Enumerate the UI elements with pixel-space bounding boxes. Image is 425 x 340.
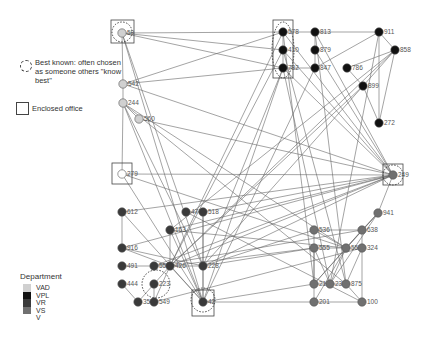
legend-best-known-label: Best known: often chosen as someone othe… xyxy=(35,58,130,85)
legend-enclosed-office-label: Enclosed office xyxy=(32,104,83,113)
node-59: 59 xyxy=(118,29,135,37)
node-circle xyxy=(342,280,350,288)
node-label: 536 xyxy=(319,226,330,233)
node-circle xyxy=(375,119,383,127)
node-circle xyxy=(135,115,143,123)
node-label: 249 xyxy=(398,171,409,178)
node-label: 410 xyxy=(288,46,299,53)
node-circle xyxy=(150,280,158,288)
node-label: 911 xyxy=(384,28,395,35)
node-label: 163 xyxy=(175,226,186,233)
node-circle xyxy=(118,208,126,216)
node-circle xyxy=(134,298,142,306)
node-circle xyxy=(310,280,318,288)
node-circle xyxy=(311,28,319,36)
node-label: 786 xyxy=(352,64,363,71)
department-legend: Department VAD VPL VR VS V xyxy=(20,272,100,322)
node-circle xyxy=(279,46,287,54)
node-label: 223 xyxy=(159,280,170,287)
node-279: 279 xyxy=(118,170,138,178)
node-circle xyxy=(199,208,207,216)
node-label: 858 xyxy=(400,46,411,53)
node-label: 847 xyxy=(320,64,331,71)
edge xyxy=(203,284,314,302)
node-228: 228 xyxy=(199,262,219,270)
node-244: 244 xyxy=(119,99,139,107)
department-label: VR xyxy=(36,299,46,307)
node-578: 578 xyxy=(279,28,299,36)
department-label: V xyxy=(36,314,41,322)
node-201: 201 xyxy=(310,298,330,306)
node-circle xyxy=(343,64,351,72)
node-circle xyxy=(150,298,158,306)
node-circle xyxy=(279,64,287,72)
node-circle xyxy=(310,298,318,306)
node-518: 518 xyxy=(199,208,219,216)
edge xyxy=(123,103,346,284)
node-circle xyxy=(375,28,383,36)
node-circle xyxy=(166,226,174,234)
node-560: 560 xyxy=(135,115,155,123)
node-813: 813 xyxy=(311,28,331,36)
edge xyxy=(122,174,393,175)
department-label: VS xyxy=(36,307,45,315)
edge xyxy=(283,32,393,175)
node-272: 272 xyxy=(375,119,395,127)
node-label: 228 xyxy=(208,262,219,269)
node-label: 555 xyxy=(319,244,330,251)
node-label: 491 xyxy=(127,262,138,269)
node-label: 813 xyxy=(320,28,331,35)
color-swatch xyxy=(23,307,31,315)
department-row-vs: VS xyxy=(20,307,100,315)
color-swatch xyxy=(23,284,31,292)
node-638: 638 xyxy=(358,226,378,234)
node-label: 916 xyxy=(127,244,138,251)
node-536: 536 xyxy=(310,226,330,234)
department-row-vpl: VPL xyxy=(20,292,100,300)
color-swatch xyxy=(23,292,31,300)
node-circle xyxy=(118,280,126,288)
node-circle xyxy=(358,244,366,252)
department-label: VPL xyxy=(36,292,49,300)
node-549: 549 xyxy=(150,298,170,306)
node-circle xyxy=(118,244,126,252)
edge xyxy=(122,175,393,248)
node-410: 410 xyxy=(279,46,299,54)
edge xyxy=(203,68,315,302)
node-circle xyxy=(391,46,399,54)
node-858: 858 xyxy=(391,46,411,54)
department-label: VAD xyxy=(36,284,50,292)
node-label: 875 xyxy=(351,280,362,287)
node-label: 244 xyxy=(128,99,139,106)
node-circle xyxy=(311,64,319,72)
node-circle xyxy=(150,262,158,270)
node-circle xyxy=(342,244,350,252)
node-circle xyxy=(118,170,126,178)
node-426: 426 xyxy=(166,262,186,270)
edge xyxy=(315,32,393,175)
node-circle xyxy=(310,226,318,234)
node-786: 786 xyxy=(343,64,363,72)
node-circle xyxy=(182,208,190,216)
node-circle xyxy=(199,298,207,306)
node-label: 578 xyxy=(288,28,299,35)
edge xyxy=(314,230,362,284)
node-324: 324 xyxy=(358,244,378,252)
department-row-vad: VAD xyxy=(20,284,100,292)
edge xyxy=(122,32,283,33)
node-label: 549 xyxy=(159,298,170,305)
node-label: 100 xyxy=(367,298,378,305)
node-612: 612 xyxy=(118,208,138,216)
node-circle xyxy=(199,262,207,270)
node-circle xyxy=(118,29,126,37)
node-circle xyxy=(166,262,174,270)
node-163: 163 xyxy=(166,226,186,234)
node-label: 941 xyxy=(383,209,394,216)
node-label: 324 xyxy=(367,244,378,251)
node-circle xyxy=(389,171,397,179)
node-100: 100 xyxy=(358,298,378,306)
edge xyxy=(170,32,283,266)
node-circle xyxy=(358,298,366,306)
node-circle xyxy=(326,280,334,288)
node-916: 916 xyxy=(118,244,138,252)
